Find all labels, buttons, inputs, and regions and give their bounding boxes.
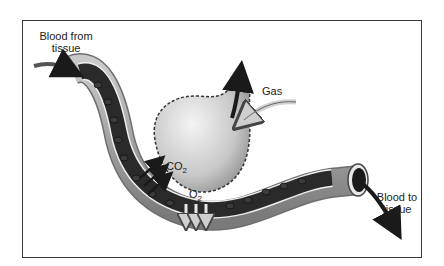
o2-subscript: 2 (198, 194, 202, 203)
inflow-arrow (34, 64, 70, 70)
o2-main: O (189, 188, 198, 200)
label-co2: CO2 (166, 160, 187, 177)
label-blood-from-tissue: Blood from tissue (36, 30, 96, 54)
co2-subscript: 2 (183, 166, 187, 175)
label-o2: O2 (189, 188, 202, 205)
co2-main: CO (166, 160, 183, 172)
label-blood-to-tissue: Blood to tissue (368, 191, 426, 215)
label-gas: Gas (262, 85, 292, 97)
